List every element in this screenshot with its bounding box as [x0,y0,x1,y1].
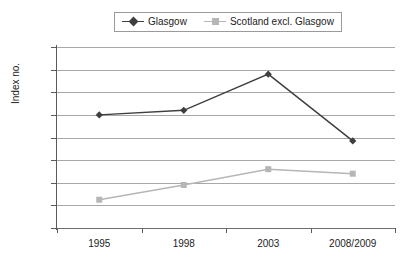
y-tick-mark-140 [51,92,56,93]
x-tick-label-1998: 1998 [173,238,195,249]
series-line-scotland-excl-glasgow [99,169,353,200]
data-point-marker [96,197,102,203]
y-tick-mark-150 [51,70,56,71]
data-point-marker [265,166,271,172]
y-tick-mark-100 [51,183,56,184]
plot-area [57,47,395,228]
y-tick-mark-120 [51,138,56,139]
gridline-80 [57,228,395,229]
x-tick-label-1995: 1995 [88,238,110,249]
series-layer [57,47,395,228]
line-chart: Glasgow Scotland excl. Glasgow Index no.… [0,0,410,262]
legend-label-scotland: Scotland excl. Glasgow [230,17,334,27]
data-point-marker [96,111,103,118]
legend-marker-shape [129,16,139,26]
legend-label-glasgow: Glasgow [148,17,187,27]
x-tick-label-2008-2009: 2008/2009 [329,238,376,249]
x-tick-label-2003: 2003 [257,238,279,249]
data-point-marker [350,171,356,177]
data-point-marker [180,107,187,114]
y-tick-mark-110 [51,160,56,161]
x-tick-mark-4 [395,228,396,233]
y-tick-mark-160 [51,47,56,48]
y-tick-mark-90 [51,205,56,206]
legend-marker-shape [212,18,219,25]
legend-entry-scotland: Scotland excl. Glasgow [204,17,334,27]
square-marker-icon [204,17,226,27]
y-tick-mark-130 [51,115,56,116]
data-point-marker [181,182,187,188]
diamond-marker-icon [122,17,144,27]
legend-entry-glasgow: Glasgow [122,17,187,27]
series-line-glasgow [99,74,353,141]
y-tick-mark-80 [51,228,56,229]
chart-legend: Glasgow Scotland excl. Glasgow [114,12,342,32]
y-axis-title: Index no. [10,63,21,104]
